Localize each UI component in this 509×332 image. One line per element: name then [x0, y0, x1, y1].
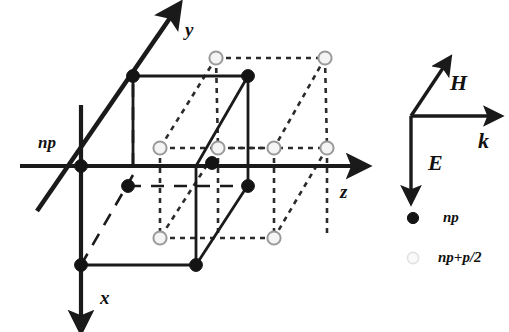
- origin-label: np: [38, 134, 56, 151]
- lattice-point-np: [242, 180, 255, 193]
- legend-marker-filled: [407, 212, 418, 223]
- legend-label-np: np: [443, 210, 459, 225]
- lattice-point-np: [75, 259, 88, 272]
- E-vector-label: E: [428, 152, 443, 174]
- lattice-point-np-half: [211, 141, 224, 154]
- lattice-point-np: [242, 70, 255, 83]
- lattice-point-np-half: [267, 231, 280, 244]
- y-axis-label: y: [185, 20, 193, 39]
- lattice-point-np: [75, 160, 88, 173]
- lattice-point-np-half: [153, 141, 166, 154]
- x-axis-label: x: [100, 288, 110, 307]
- lattice-point-np: [190, 259, 203, 272]
- lattice-point-np-half: [153, 231, 166, 244]
- lattice-point-np-half: [318, 51, 331, 64]
- lattice-point-np: [206, 157, 219, 170]
- lattice-point-np-half: [267, 141, 280, 154]
- k-vector-label: k: [478, 130, 489, 152]
- H-vector-arrow: [411, 68, 443, 116]
- lattice-point-np-half: [320, 141, 333, 154]
- z-axis-label: z: [340, 182, 347, 201]
- lattice-point-np: [127, 70, 140, 83]
- lattice-diagram-figure: y z x np H k E np np+p/2: [0, 0, 509, 332]
- H-vector-label: H: [450, 72, 467, 94]
- y-axis: [37, 18, 170, 211]
- axis-lines: [20, 18, 352, 316]
- legend-label-np-half: np+p/2: [438, 250, 482, 265]
- lattice-point-np: [122, 180, 135, 193]
- legend-marker-open: [407, 252, 418, 263]
- lattice-point-np-half: [209, 51, 222, 64]
